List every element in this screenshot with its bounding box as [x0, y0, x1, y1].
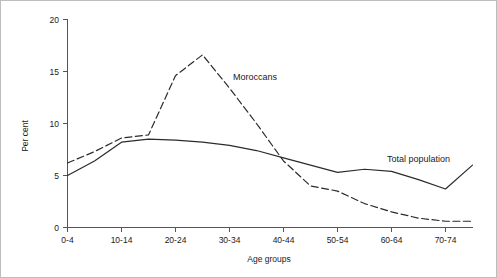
- x-axis-ticks: [68, 227, 446, 232]
- x-tick-label-70-74: 70-74: [435, 235, 457, 245]
- y-tick-label-5: 5: [54, 171, 59, 181]
- x-tick-label-60-64: 60-64: [381, 235, 403, 245]
- series-line-total-population: [68, 139, 473, 189]
- x-tick-label-50-54: 50-54: [327, 235, 349, 245]
- y-tick-label-10: 10: [50, 119, 60, 129]
- x-tick-label-10-14: 10-14: [111, 235, 133, 245]
- series-label-moroccans: Moroccans: [233, 72, 278, 82]
- x-tick-label-20-24: 20-24: [165, 235, 187, 245]
- y-axis-title: Per cent: [20, 120, 30, 152]
- y-tick-label-15: 15: [50, 67, 60, 77]
- x-axis-title: Age groups: [247, 254, 290, 264]
- y-axis-ticks: [63, 20, 68, 228]
- x-tick-label-40-44: 40-44: [273, 235, 295, 245]
- x-tick-label-0-4: 0-4: [61, 235, 74, 245]
- series-label-total-population: Total population: [387, 154, 450, 164]
- chart-figure: 20 15 10 5 0 Per cent 0-4 10-14 20-24 30…: [0, 0, 497, 278]
- y-tick-label-20: 20: [50, 15, 60, 25]
- line-chart: 20 15 10 5 0 Per cent 0-4 10-14 20-24 30…: [1, 1, 497, 278]
- y-tick-label-0: 0: [54, 223, 59, 233]
- x-tick-label-30-34: 30-34: [219, 235, 241, 245]
